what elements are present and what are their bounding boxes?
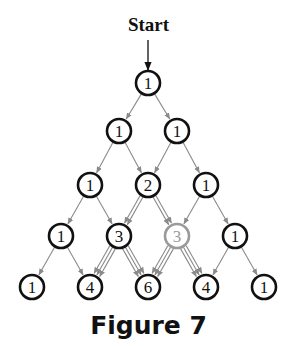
node-r2-1: 2 (136, 173, 160, 197)
node-r3-1: 3 (107, 224, 131, 248)
svg-text:1: 1 (260, 278, 269, 297)
node-r4-3: 4 (194, 275, 218, 299)
svg-text:1: 1 (115, 122, 124, 141)
node-r2-2: 1 (194, 173, 218, 197)
node-r2-0: 1 (78, 173, 102, 197)
svg-text:1: 1 (202, 176, 211, 195)
node-r3-2: 3 (165, 224, 189, 248)
svg-text:1: 1 (231, 227, 240, 246)
svg-text:1: 1 (144, 74, 153, 93)
svg-text:1: 1 (57, 227, 66, 246)
node-r4-2: 6 (136, 275, 160, 299)
nodes: 111121133114641 (20, 71, 276, 299)
svg-text:3: 3 (173, 227, 182, 246)
node-r4-4: 1 (252, 275, 276, 299)
node-r3-0: 1 (49, 224, 73, 248)
svg-text:1: 1 (173, 122, 182, 141)
path-graph: 111121133114641 (0, 0, 297, 346)
figure-caption: Figure 7 (0, 311, 297, 340)
svg-text:2: 2 (144, 176, 153, 195)
node-r4-1: 4 (78, 275, 102, 299)
node-r0-0: 1 (136, 71, 160, 95)
svg-text:1: 1 (28, 278, 37, 297)
node-r1-1: 1 (165, 119, 189, 143)
node-r4-0: 1 (20, 275, 44, 299)
svg-text:4: 4 (202, 278, 211, 297)
pascal-triangle-diagram: Start 111121133114641 Figure 7 (0, 0, 297, 346)
svg-text:3: 3 (115, 227, 124, 246)
svg-text:4: 4 (86, 278, 95, 297)
svg-text:1: 1 (86, 176, 95, 195)
node-r3-3: 1 (223, 224, 247, 248)
svg-text:6: 6 (144, 278, 153, 297)
node-r1-0: 1 (107, 119, 131, 143)
